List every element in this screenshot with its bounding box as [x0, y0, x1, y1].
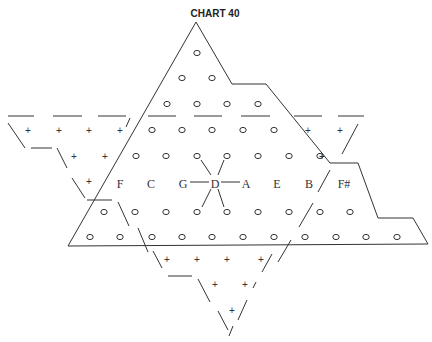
circle-marker — [87, 234, 93, 239]
circle-markers — [87, 50, 400, 239]
plus-marker: + — [86, 125, 92, 136]
circle-marker — [302, 234, 308, 239]
plus-marker: + — [305, 125, 311, 136]
circle-marker — [255, 153, 261, 158]
circle-marker — [394, 234, 400, 239]
plus-marker: + — [71, 151, 77, 162]
lower-inverted-triangle-outline — [153, 251, 272, 336]
circle-marker — [194, 209, 200, 214]
circle-marker — [240, 234, 246, 239]
circle-marker — [194, 50, 200, 55]
circle-marker — [271, 127, 277, 132]
plus-marker: + — [258, 254, 264, 265]
circle-marker — [149, 234, 155, 239]
circle-marker — [224, 153, 230, 158]
circle-marker — [209, 127, 215, 132]
chart-title: CHART 40 — [191, 8, 240, 19]
circle-marker — [194, 101, 200, 106]
circle-marker — [179, 127, 185, 132]
circle-marker — [149, 127, 155, 132]
plus-marker: + — [164, 254, 170, 265]
circle-marker — [179, 75, 185, 80]
left-inverted-triangle-outline — [8, 116, 148, 252]
plus-marker: + — [224, 254, 230, 265]
plus-marker: + — [337, 125, 343, 136]
circle-marker — [101, 209, 107, 214]
circle-marker — [333, 234, 339, 239]
note-label: A — [242, 177, 251, 191]
plus-marker: + — [194, 254, 200, 265]
plus-marker: + — [25, 125, 31, 136]
note-label: F — [117, 177, 124, 191]
circle-marker — [133, 153, 139, 158]
circle-marker — [224, 209, 230, 214]
plus-marker: + — [242, 279, 248, 290]
circle-marker — [194, 153, 200, 158]
plus-marker: + — [56, 125, 62, 136]
circle-marker — [179, 234, 185, 239]
circle-marker — [271, 234, 277, 239]
plus-marker: + — [229, 305, 235, 316]
circle-marker — [240, 127, 246, 132]
note-label: D — [211, 177, 220, 191]
plus-marker: + — [102, 151, 108, 162]
plus-marker: + — [86, 176, 92, 187]
circle-marker — [363, 234, 369, 239]
circle-marker — [163, 153, 169, 158]
plus-markers: +++++++++++++++++ — [25, 125, 343, 316]
circle-marker — [224, 101, 230, 106]
note-label: G — [179, 177, 188, 191]
circle-marker — [255, 101, 261, 106]
plus-marker: + — [117, 125, 123, 136]
circle-marker — [255, 209, 261, 214]
circle-marker — [164, 101, 170, 106]
right-inverted-triangle-outline — [278, 116, 364, 262]
note-label: F# — [338, 177, 351, 191]
circle-marker — [209, 75, 215, 80]
circle-marker — [209, 234, 215, 239]
circle-marker — [347, 209, 353, 214]
circle-marker — [117, 234, 123, 239]
note-labels: FCGDAEBF# — [117, 177, 351, 191]
note-label: C — [147, 177, 155, 191]
plus-marker: + — [212, 279, 218, 290]
note-label: B — [305, 177, 313, 191]
circle-marker — [317, 209, 323, 214]
plus-marker: + — [319, 151, 325, 162]
note-label: E — [273, 177, 280, 191]
circle-marker — [286, 209, 292, 214]
chart-40-diagram: CHART 40 — [0, 0, 432, 342]
circle-marker — [163, 209, 169, 214]
circle-marker — [132, 209, 138, 214]
circle-marker — [286, 153, 292, 158]
